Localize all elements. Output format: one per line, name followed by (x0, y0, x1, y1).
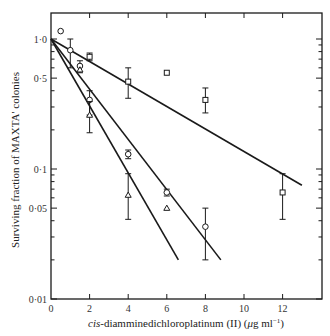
y-tick-label: 0·01 (29, 294, 47, 305)
y-tick-label: 0·1 (34, 164, 47, 175)
fit-lines (51, 39, 302, 260)
x-tick-label: 12 (278, 303, 288, 314)
square-marker (280, 190, 285, 195)
x-tick-label: 10 (239, 303, 249, 314)
x-tick-label: 4 (126, 303, 131, 314)
x-tick-label: 2 (87, 303, 92, 314)
y-axis-title: Surviving fraction of MAXTA' colonies (9, 72, 21, 248)
square-marker (126, 79, 131, 84)
circle-marker (58, 28, 64, 34)
x-axis-title: cis-diamminedichloroplatinum (II) (μg ml… (88, 317, 284, 330)
y-tick-label: 0·05 (29, 203, 47, 214)
square-marker (164, 70, 169, 75)
x-tick-label: 8 (203, 303, 208, 314)
y-tick-label: 0·5 (34, 73, 47, 84)
circle-marker (125, 151, 131, 157)
triangle-marker (164, 205, 170, 210)
survival-chart: 0246810121·00·50·10·050·01 Surviving fra… (0, 0, 330, 336)
x-tick-label: 0 (49, 303, 54, 314)
y-tick-label: 1·0 (34, 34, 47, 45)
x-tick-label: 6 (164, 303, 169, 314)
tick-labels: 0246810121·00·50·10·050·01 (29, 34, 288, 315)
fit-line-triangles (51, 39, 178, 260)
square-marker (87, 54, 92, 59)
square-marker (203, 97, 208, 102)
triangle-marker (125, 192, 131, 197)
circle-marker (203, 224, 209, 230)
circle-marker (164, 190, 170, 196)
circle-marker (68, 47, 74, 53)
